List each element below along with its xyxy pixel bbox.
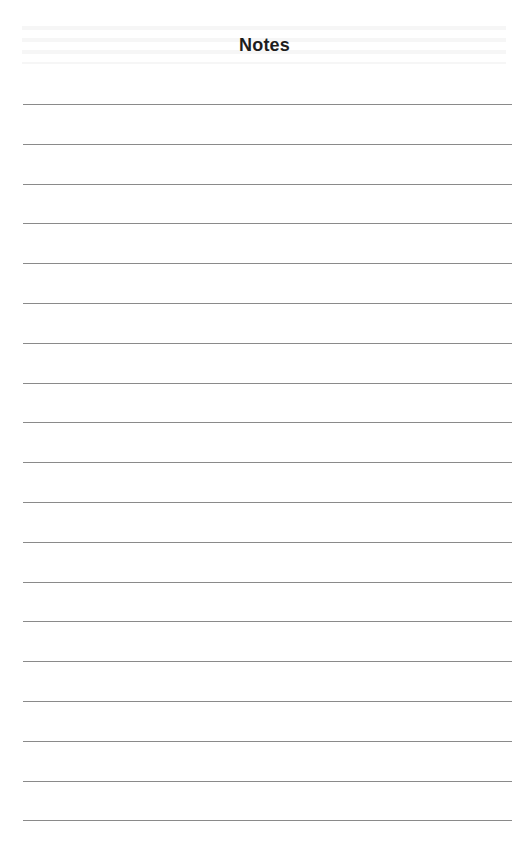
ruled-line: [23, 383, 512, 384]
ruled-line: [23, 701, 512, 702]
ruled-line: [23, 223, 512, 224]
ruled-line: [23, 462, 512, 463]
ruled-lines-area[interactable]: [23, 0, 512, 862]
ruled-line: [23, 820, 512, 821]
ruled-line: [23, 661, 512, 662]
ruled-line: [23, 104, 512, 105]
ruled-line: [23, 144, 512, 145]
ruled-line: [23, 582, 512, 583]
ruled-line: [23, 781, 512, 782]
ruled-line: [23, 263, 512, 264]
ruled-line: [23, 184, 512, 185]
ruled-line: [23, 343, 512, 344]
ruled-line: [23, 303, 512, 304]
ruled-line: [23, 741, 512, 742]
ruled-line: [23, 621, 512, 622]
ruled-line: [23, 542, 512, 543]
ruled-line: [23, 502, 512, 503]
ruled-line: [23, 422, 512, 423]
